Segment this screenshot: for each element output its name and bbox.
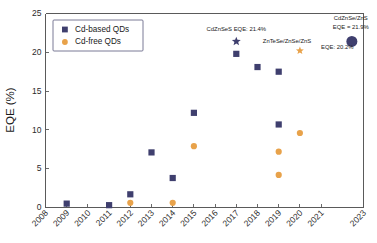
data-point — [127, 191, 133, 197]
data-point — [254, 64, 260, 70]
data-point — [276, 121, 282, 127]
data-point — [276, 69, 282, 75]
data-point — [148, 149, 154, 155]
legend-marker-circle — [62, 39, 68, 45]
zntese-eqe-annotation: EQE: 20.2% — [321, 44, 354, 50]
zntese-annotation: ZnTeSe/ZnSe/ZnS — [263, 38, 312, 44]
legend-marker-square — [62, 27, 68, 33]
chart-legend: Cd-based QDsCd-free QDs — [53, 20, 143, 51]
cdznse-zns-name-annotation: CdZnSe/ZnS — [334, 15, 368, 21]
data-point — [276, 172, 282, 178]
data-point — [191, 110, 197, 116]
data-point — [170, 200, 176, 206]
cdznse-zns-eqe-annotation: EQE = 21.9% — [333, 24, 370, 30]
data-point — [191, 143, 197, 149]
y-tick-label: 15 — [32, 86, 42, 96]
y-tick-label: 5 — [37, 163, 42, 173]
data-point — [64, 201, 70, 207]
eqe-vs-year-scatter-chart: 0510152025 20082009201020112012201320142… — [0, 0, 377, 243]
cdznses-eqe-annotation: CdZnSeS EQE: 21.4% — [207, 26, 267, 32]
y-tick-label: 25 — [32, 8, 42, 18]
y-axis-label: EQE (%) — [4, 87, 16, 133]
data-point — [297, 130, 303, 136]
data-point — [106, 202, 112, 208]
y-tick-label: 20 — [32, 47, 42, 57]
data-point — [276, 149, 282, 155]
legend-label: Cd-free QDs — [75, 37, 121, 46]
y-tick-label: 10 — [32, 125, 42, 135]
legend-label: Cd-based QDs — [75, 25, 129, 34]
data-point — [170, 175, 176, 181]
data-point — [127, 200, 133, 206]
data-point — [233, 51, 239, 57]
